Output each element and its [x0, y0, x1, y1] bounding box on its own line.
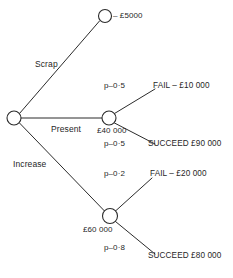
scrap-terminal-node — [99, 10, 112, 23]
probability-label-increase-fail: p–0·2 — [104, 170, 125, 178]
outcome-label-present-fail: FAIL – £10 000 — [153, 82, 210, 90]
outcome-label-present-succeed: SUCCEED £90 000 — [148, 140, 221, 148]
increase-node-value-label: £60 000 — [83, 226, 113, 234]
present-node-value-label: £40 000 — [97, 127, 127, 135]
probability-label-increase-succeed: p–0·8 — [104, 244, 125, 252]
branch-line-present-fail — [115, 89, 156, 114]
outcome-label-increase-fail: FAIL – £20 000 — [150, 170, 207, 178]
branch-label-scrap: Scrap — [35, 60, 58, 69]
probability-label-present-succeed: p–0·5 — [104, 140, 125, 148]
scrap-terminal-value-label: – £5000 — [113, 12, 143, 20]
branch-line-scrap — [20, 21, 100, 114]
increase-chance-node — [103, 209, 118, 224]
present-chance-node — [102, 111, 116, 125]
branch-label-present: Present — [51, 125, 81, 134]
root-decision-node — [7, 111, 21, 125]
probability-label-present-fail: p–0·5 — [104, 82, 125, 90]
decision-tree-diagram: – £5000 £40 000 £60 000 Scrap Present In… — [0, 0, 233, 278]
branch-label-increase: Increase — [13, 160, 46, 169]
branch-line-increase-fail — [116, 178, 153, 211]
outcome-label-increase-succeed: SUCCEED £80 000 — [148, 252, 221, 260]
